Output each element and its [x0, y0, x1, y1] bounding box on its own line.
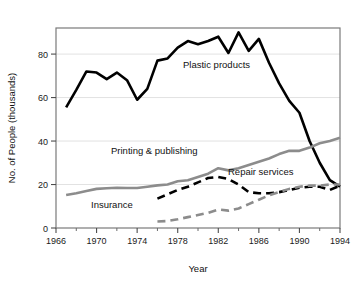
x-tick-label-1982: 1982 — [208, 236, 228, 246]
annotation-printing-publishing: Printing & publishing — [111, 145, 198, 156]
y-tick-label-20: 20 — [38, 180, 48, 190]
y-tick-label-40: 40 — [38, 137, 48, 147]
x-tick-label-1966: 1966 — [46, 236, 66, 246]
annotation-insurance: Insurance — [91, 199, 133, 210]
x-tick-label-1994: 1994 — [330, 236, 350, 246]
y-tick-label-60: 60 — [38, 93, 48, 103]
x-tick-label-1974: 1974 — [127, 236, 147, 246]
chart-container: 19661970197419781982198619901994 0204060… — [0, 0, 360, 283]
x-tick-label-1990: 1990 — [289, 236, 309, 246]
line-chart: 19661970197419781982198619901994 0204060… — [0, 0, 360, 283]
y-tick-label-0: 0 — [43, 224, 48, 234]
annotation-plastic-products: Plastic products — [183, 59, 250, 70]
y-axis-title: No. of People (thousands) — [6, 73, 17, 183]
x-tick-label-1970: 1970 — [87, 236, 107, 246]
annotation-repair-services: Repair services — [228, 166, 294, 177]
y-tick-label-80: 80 — [38, 50, 48, 60]
x-tick-label-1978: 1978 — [168, 236, 188, 246]
x-tick-label-1986: 1986 — [249, 236, 269, 246]
x-axis-title: Year — [188, 263, 207, 274]
